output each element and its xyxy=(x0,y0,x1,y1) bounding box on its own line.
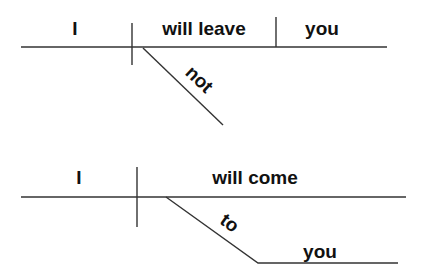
diagram-2: I will come to you xyxy=(21,167,406,263)
verb-word: will come xyxy=(211,167,298,188)
preposition-word: to xyxy=(216,209,243,237)
diagram-1: I will leave you not xyxy=(21,17,387,125)
object-word: you xyxy=(305,18,339,39)
prepositional-phrase-line xyxy=(166,197,398,263)
modifier-word: not xyxy=(182,62,218,98)
subject-word: I xyxy=(72,18,77,39)
subject-word: I xyxy=(76,167,81,188)
prepositional-object-word: you xyxy=(303,241,337,262)
sentence-diagrams: I will leave you not I will come to you xyxy=(0,0,426,279)
verb-word: will leave xyxy=(161,18,245,39)
